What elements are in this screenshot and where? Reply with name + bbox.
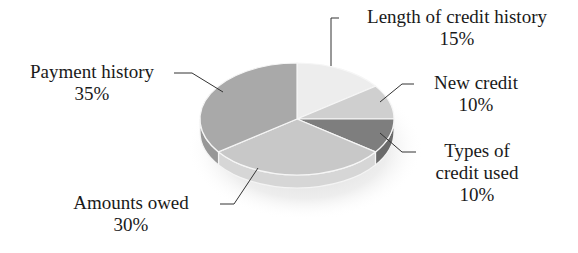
label-new-value: 10% (416, 94, 536, 116)
label-amounts-name: Amounts owed (46, 192, 216, 214)
label-length-value: 15% (342, 28, 572, 50)
label-amounts-value: 30% (46, 214, 216, 236)
label-types-name-1: Types of (412, 140, 542, 162)
label-types-name-2: credit used (412, 162, 542, 184)
label-types-of-credit-used: Types of credit used 10% (412, 140, 542, 206)
label-amounts-owed: Amounts owed 30% (46, 192, 216, 236)
pie-top (200, 63, 394, 175)
leader-length (331, 18, 339, 66)
label-payment-history: Payment history 35% (12, 61, 172, 105)
label-new-name: New credit (416, 72, 536, 94)
label-length-of-credit-history: Length of credit history 15% (342, 6, 572, 50)
label-payment-name: Payment history (12, 61, 172, 83)
label-types-value: 10% (412, 184, 542, 206)
label-payment-value: 35% (12, 83, 172, 105)
label-new-credit: New credit 10% (416, 72, 536, 116)
label-length-name: Length of credit history (342, 6, 572, 28)
